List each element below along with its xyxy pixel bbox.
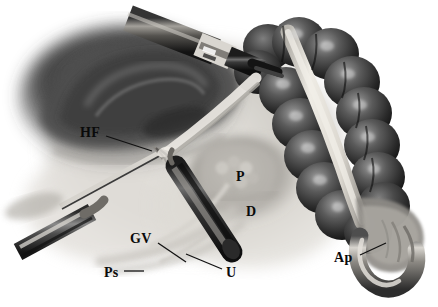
label-p: P (236, 170, 245, 184)
label-d: D (246, 205, 256, 219)
illustration-artwork (0, 0, 438, 307)
figure-canvas: HF P D GV Ps U Ap (0, 0, 438, 307)
label-u: U (226, 266, 236, 280)
label-ap: Ap (334, 251, 353, 265)
label-gv: GV (130, 232, 152, 246)
label-hf: HF (80, 126, 100, 140)
label-ps: Ps (104, 266, 119, 280)
cecum-appendix-group (356, 198, 424, 289)
